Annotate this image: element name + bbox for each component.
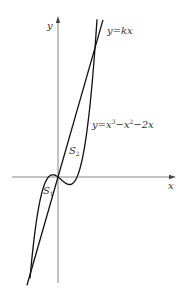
- y-axis-label: y: [47, 21, 53, 31]
- s2-base: S: [69, 145, 76, 156]
- x-axis-label: x: [168, 181, 174, 191]
- cubic-label-part2: −x: [116, 119, 130, 130]
- x-axis-arrow-icon: [169, 175, 176, 179]
- s1-base: S: [43, 185, 50, 196]
- graph-canvas: [0, 0, 184, 297]
- y-axis-arrow-icon: [56, 16, 60, 23]
- region-s1-label: S1: [43, 186, 54, 197]
- s1-sub: 1: [50, 190, 54, 197]
- line-y-equals-kx: [27, 20, 103, 285]
- cubic-label-part3: −2x: [133, 119, 153, 130]
- region-s2-label: S2: [69, 146, 80, 157]
- cubic-label-part1: y=x: [92, 119, 112, 130]
- cubic-equation-label: y=x3−x2−2x: [92, 119, 154, 130]
- s2-sub: 2: [76, 150, 80, 157]
- function-graph-figure: y x y=kx y=x3−x2−2x S2 S1: [0, 0, 184, 297]
- line-equation-label: y=kx: [107, 26, 133, 36]
